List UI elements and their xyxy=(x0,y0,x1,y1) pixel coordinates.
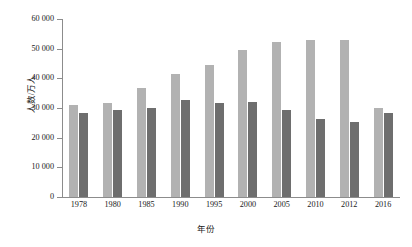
x-tick-label: 2010 xyxy=(299,200,333,209)
y-tick-label: 50 000 xyxy=(31,45,54,53)
y-tick-label: 60 000 xyxy=(31,15,54,23)
bar-group xyxy=(62,19,96,197)
x-tick-label: 2000 xyxy=(231,200,265,209)
bar-series-b-1985 xyxy=(147,108,156,197)
x-tick-label: 2012 xyxy=(332,200,366,209)
x-tick-label: 2016 xyxy=(366,200,400,209)
bar-group xyxy=(366,19,400,197)
bar-group xyxy=(130,19,164,197)
y-tick-mark xyxy=(57,197,62,198)
y-tick-label: 40 000 xyxy=(31,74,54,82)
bar-series-b-2016 xyxy=(384,113,393,197)
bar-series-b-1978 xyxy=(79,113,88,197)
bar-series-b-2005 xyxy=(282,110,291,197)
bar-group xyxy=(299,19,333,197)
bar-group xyxy=(231,19,265,197)
bar-series-a-2012 xyxy=(340,40,349,197)
y-tick-label: 10 000 xyxy=(31,163,54,171)
x-axis-line xyxy=(62,197,400,198)
bar-series-a-2010 xyxy=(306,40,315,197)
x-tick-label: 1990 xyxy=(163,200,197,209)
x-tick-label: 2005 xyxy=(265,200,299,209)
bar-series-b-2010 xyxy=(316,119,325,197)
y-tick-label: 20 000 xyxy=(31,134,54,142)
bar-series-b-1995 xyxy=(215,103,224,197)
y-tick-label: 30 000 xyxy=(31,104,54,112)
x-axis-label: 年份 xyxy=(0,222,412,234)
bar-groups xyxy=(62,19,400,197)
bar-series-a-1980 xyxy=(103,103,112,197)
bar-series-a-2016 xyxy=(374,108,383,197)
bar-series-b-2012 xyxy=(350,122,359,197)
x-tick-label: 1978 xyxy=(62,200,96,209)
bar-group xyxy=(265,19,299,197)
x-tick-label: 1980 xyxy=(96,200,130,209)
bar-chart: 人数/万人 60 00050 00040 00030 00020 00010 0… xyxy=(0,0,412,247)
y-tick-label: 0 xyxy=(50,193,54,201)
bar-series-a-2000 xyxy=(238,50,247,197)
bar-series-b-1980 xyxy=(113,110,122,197)
x-tick-label: 1995 xyxy=(197,200,231,209)
bar-series-b-2000 xyxy=(248,102,257,197)
bar-group xyxy=(332,19,366,197)
bar-group xyxy=(163,19,197,197)
bar-series-a-1990 xyxy=(171,74,180,197)
bar-series-b-1990 xyxy=(181,100,190,197)
bar-group xyxy=(197,19,231,197)
x-axis-tick-labels: 1978198019851990199520002005201020122016 xyxy=(62,200,400,209)
bar-series-a-1985 xyxy=(137,88,146,197)
bar-series-a-1978 xyxy=(69,105,78,197)
x-tick-label: 1985 xyxy=(130,200,164,209)
y-axis-label: 人数/万人 xyxy=(24,48,36,140)
bar-series-a-1995 xyxy=(205,65,214,197)
bar-group xyxy=(96,19,130,197)
bar-series-a-2005 xyxy=(272,42,281,197)
